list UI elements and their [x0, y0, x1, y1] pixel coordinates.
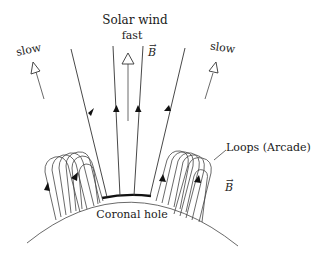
fast-wind-arrow [122, 53, 134, 121]
vector-arrow-icon: → [226, 175, 234, 185]
slow-label-left: slow [15, 41, 43, 59]
coronal-hole-marker [102, 195, 151, 198]
loops-leader-line [214, 150, 226, 160]
coronal-hole-label: Coronal hole [96, 208, 167, 221]
solar-wind-label: Solar wind [102, 13, 168, 27]
loops-label: Loops (Arcade) [226, 141, 311, 154]
vector-arrow-icon: → [149, 40, 157, 50]
slow-label-right: slow [209, 40, 236, 56]
fast-label: fast [122, 29, 143, 42]
slow-wind-arrow-right [205, 62, 218, 99]
solar-wind-diagram: Solar wind fast B → slow slow Loops (Arc… [0, 0, 316, 257]
loop-arcade-left [44, 152, 103, 220]
slow-wind-arrow-left [31, 62, 44, 99]
